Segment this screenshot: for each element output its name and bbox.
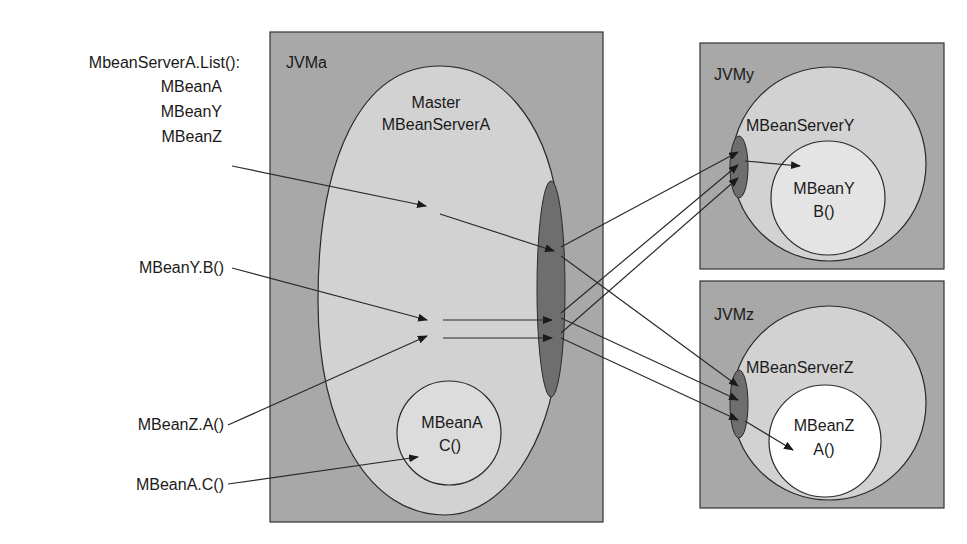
mbean-a-circle — [397, 381, 501, 485]
call-c-label: MBeanA.C() — [136, 476, 224, 493]
mbean-server-y-label: MBeanServerY — [746, 117, 855, 134]
mbean-a-name: MBeanA — [421, 414, 483, 431]
list-item-mbean-z: MBeanZ — [162, 128, 223, 145]
mbean-z-name: MBeanZ — [794, 417, 855, 434]
mbean-y-method: B() — [813, 203, 834, 220]
connector-z — [730, 370, 748, 438]
list-item-mbean-a: MBeanA — [161, 78, 223, 95]
mbean-y-circle — [771, 141, 885, 255]
mbean-y-name: MBeanY — [793, 180, 855, 197]
call-a-label: MBeanZ.A() — [138, 416, 224, 433]
list-call-label: MbeanServerA.List(): — [89, 54, 240, 71]
connector-a — [537, 181, 565, 397]
mbean-server-a-label: MBeanServerA — [382, 116, 491, 133]
jvm-z-title: JVMz — [714, 306, 754, 323]
jvm-y-title: JVMy — [714, 66, 754, 83]
mbean-z-method: A() — [813, 441, 834, 458]
connector-y — [730, 136, 748, 198]
diagram-canvas: MbeanServerA.List(): MBeanA MBeanY MBean… — [0, 0, 967, 544]
list-item-mbean-y: MBeanY — [161, 103, 223, 120]
master-label: Master — [412, 94, 462, 111]
jvm-a-title: JVMa — [286, 54, 327, 71]
call-b-label: MBeanY.B() — [139, 259, 224, 276]
mbean-server-z-label: MBeanServerZ — [746, 359, 854, 376]
mbean-a-method: C() — [439, 437, 461, 454]
